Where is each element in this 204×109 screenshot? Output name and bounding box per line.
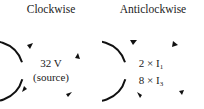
anticlockwise-loop-arrow-icon [102, 0, 204, 109]
current-term-3: 8 × I3 [100, 74, 202, 91]
current-term-1: 2 × I1 [100, 57, 202, 74]
source-descriptor-label: (source) [0, 71, 102, 84]
source-voltage-label: 32 V [0, 57, 102, 70]
anticlockwise-panel: Anticlockwise 2 × I1 8 × I3 [102, 0, 204, 109]
clockwise-loop-arrow-icon [0, 0, 102, 109]
clockwise-panel: Clockwise 32 V (source) [0, 0, 102, 109]
current-term-1-coef: 2 × I [139, 57, 160, 69]
current-term-1-subscript: 1 [160, 63, 164, 71]
current-term-3-coef: 8 × I [139, 74, 160, 86]
current-term-3-subscript: 3 [160, 80, 164, 88]
